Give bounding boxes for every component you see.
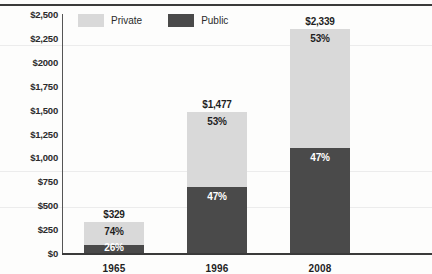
bar-group[interactable]: $1,47753%47% [187,112,247,253]
legend-swatch-private-icon [78,14,104,27]
bar-segment-public[interactable]: 47% [187,187,247,253]
bar-segment-public[interactable]: 26% [84,245,144,253]
y-axis-tick-labels: $2,500$2,250$2000$1,750$1,500$1,250$1,00… [0,0,58,274]
chart-legend: Private Public [78,14,228,27]
y-axis-tick-label: $2000 [6,56,58,67]
bar-segment-private-label: 53% [290,33,350,44]
bar-segment-public[interactable]: 47% [290,148,350,253]
bar-segment-public-label: 47% [187,191,247,202]
legend-label-private: Private [111,15,142,26]
x-axis-line [62,253,432,255]
bar-total-label: $2,339 [276,16,364,27]
x-axis-category-label: 1996 [169,263,265,274]
bar-segment-public-label: 47% [290,152,350,163]
plot-area: $32974%26%$1,47753%47%$2,33953%47% [62,14,432,253]
bar-segment-private-label: 53% [187,116,247,127]
y-axis-tick-label: $1,250 [6,128,58,139]
x-axis-category-label: 2008 [272,263,368,274]
bar-segment-public-label: 26% [84,242,144,253]
y-axis-tick-label: $1,500 [6,104,58,115]
bar-segment-private[interactable]: 53% [187,112,247,187]
y-axis-tick-label: $2,500 [6,9,58,20]
bar-total-label: $1,477 [173,99,261,110]
y-axis-tick-label: $750 [6,176,58,187]
x-axis-category-label: 1965 [66,263,162,274]
y-axis-tick-label: $1,000 [6,152,58,163]
legend-label-public: Public [201,15,228,26]
bar-group[interactable]: $2,33953%47% [290,29,350,253]
y-axis-tick-label: $500 [6,200,58,211]
chart-page: $2,500$2,250$2000$1,750$1,500$1,250$1,00… [0,0,432,274]
y-axis-tick-label: $1,750 [6,80,58,91]
bar-segment-private[interactable]: 53% [290,29,350,148]
legend-item-public: Public [168,14,228,27]
bar-group[interactable]: $32974%26% [84,222,144,253]
y-axis-tick-label: $250 [6,224,58,235]
legend-item-private: Private [78,14,142,27]
legend-swatch-public-icon [168,14,194,27]
bar-total-label: $329 [70,209,158,220]
bar-segment-private-label: 74% [84,226,144,237]
page-top-rule [0,4,432,6]
y-axis-tick-label: $2,250 [6,32,58,43]
y-axis-tick-label: $0 [6,248,58,259]
